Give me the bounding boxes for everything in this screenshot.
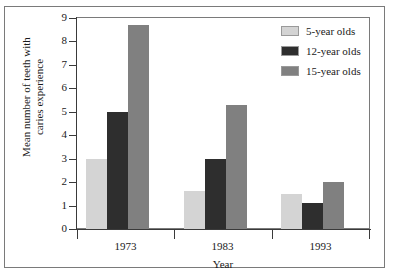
y-tick-label-text: 2 xyxy=(45,176,67,187)
x-axis-separator xyxy=(369,230,370,239)
y-tick-mark xyxy=(69,206,77,207)
y-tick-mark xyxy=(69,182,77,183)
x-axis-separator xyxy=(77,230,78,239)
y-tick-label-text: 8 xyxy=(45,35,67,46)
legend-label: 12-year olds xyxy=(306,45,361,57)
y-tick-mark xyxy=(69,159,77,160)
legend-label: 15-year olds xyxy=(306,65,361,77)
bar xyxy=(281,194,302,229)
y-tick-mark xyxy=(69,112,77,113)
bar xyxy=(107,112,128,229)
y-tick-mark xyxy=(69,41,77,42)
y-axis-title-line1: Mean number of teeth with xyxy=(20,2,33,192)
legend-swatch xyxy=(281,46,299,56)
y-tick-label-text: 5 xyxy=(45,106,67,117)
y-tick-label-text: 9 xyxy=(45,12,67,23)
bar xyxy=(184,191,205,229)
x-axis-separator xyxy=(272,230,273,239)
y-tick-label-text: 0 xyxy=(45,223,67,234)
y-tick-mark xyxy=(69,229,77,230)
x-axis-line xyxy=(76,229,371,230)
y-tick-label-text: 4 xyxy=(45,129,67,140)
legend-item: 5-year olds xyxy=(281,22,367,39)
bar xyxy=(302,203,323,229)
x-category-label: 1993 xyxy=(272,240,369,252)
y-tick-label-text: 6 xyxy=(45,82,67,93)
y-axis-title-line2: caries experience xyxy=(33,2,46,192)
chart-screenshot: 0123456789 197319831993 Year Mean number… xyxy=(0,0,399,279)
y-tick-mark xyxy=(69,135,77,136)
bar xyxy=(323,182,344,229)
y-tick-mark xyxy=(69,65,77,66)
x-axis-separator xyxy=(174,230,175,239)
legend-swatch xyxy=(281,26,299,36)
legend-item: 15-year olds xyxy=(281,62,367,79)
bar xyxy=(205,159,226,229)
y-tick-label-text: 3 xyxy=(45,153,67,164)
x-axis-title: Year xyxy=(76,258,370,270)
legend-item: 12-year olds xyxy=(281,42,367,59)
x-category-label: 1983 xyxy=(174,240,271,252)
y-tick-label: 1 xyxy=(40,200,67,211)
y-tick-mark xyxy=(69,88,77,89)
legend-swatch xyxy=(281,66,299,76)
y-tick-label-text: 1 xyxy=(45,200,67,211)
legend: 5-year olds12-year olds15-year olds xyxy=(281,22,367,82)
bar xyxy=(128,25,149,229)
legend-label: 5-year olds xyxy=(306,25,355,37)
bar xyxy=(226,105,247,229)
x-category-label: 1973 xyxy=(77,240,174,252)
y-tick-mark xyxy=(69,18,77,19)
bar xyxy=(86,159,107,229)
y-tick-label-text: 7 xyxy=(45,59,67,70)
y-axis-title: Mean number of teeth with caries experie… xyxy=(20,2,46,192)
y-tick-label: 0 xyxy=(40,223,67,234)
